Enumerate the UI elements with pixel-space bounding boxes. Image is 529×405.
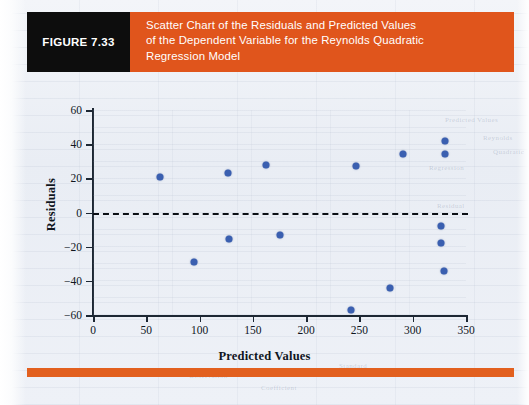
scatter-point — [438, 240, 445, 247]
x-tick — [466, 315, 468, 322]
y-tick-label: −40 — [64, 275, 82, 287]
y-tick-label: 20 — [71, 172, 83, 184]
scatter-point — [441, 151, 448, 158]
x-tick — [93, 315, 95, 322]
x-tick — [306, 315, 308, 322]
figure-number-tag: FIGURE 7.33 — [27, 12, 130, 72]
y-tick-label: 60 — [71, 104, 83, 116]
ghost-text: Reynolds — [483, 134, 513, 142]
scatter-point — [276, 231, 283, 238]
scatter-point — [440, 267, 447, 274]
x-axis-line — [92, 315, 467, 317]
figure-header: FIGURE 7.33 Scatter Chart of the Residua… — [27, 12, 514, 72]
scatter-point — [191, 259, 198, 266]
scatter-point — [347, 306, 354, 313]
x-tick-label: 100 — [191, 324, 208, 336]
x-tick — [359, 315, 361, 322]
y-tick — [86, 178, 93, 180]
ghost-text: Quadratic — [493, 148, 524, 156]
zero-reference-line — [93, 213, 468, 215]
ghost-text: Predicted Values — [445, 116, 498, 124]
x-tick-label: 0 — [90, 324, 96, 336]
scatter-point — [400, 151, 407, 158]
x-tick-label: 300 — [404, 324, 421, 336]
y-tick-label: 0 — [76, 207, 82, 219]
y-tick — [86, 144, 93, 146]
y-axis-title: Residuals — [44, 178, 59, 231]
x-tick — [413, 315, 415, 322]
x-axis-title: Predicted Values — [0, 349, 529, 364]
caption-line-3: Regression Model — [146, 49, 504, 64]
scatter-point — [262, 161, 269, 168]
scatter-point — [226, 235, 233, 242]
y-tick — [86, 315, 93, 317]
bottom-orange-rule — [27, 368, 514, 377]
y-tick-label: −20 — [64, 241, 82, 253]
caption-line-1: Scatter Chart of the Residuals and Predi… — [146, 18, 504, 33]
x-tick — [146, 315, 148, 322]
caption-line-2: of the Dependent Variable for the Reynol… — [146, 33, 504, 48]
y-tick — [86, 247, 93, 249]
scatter-point — [387, 284, 394, 291]
x-tick-label: 150 — [244, 324, 261, 336]
figure-caption: Scatter Chart of the Residuals and Predi… — [130, 12, 514, 72]
ghost-text: Residual — [437, 202, 465, 210]
plot-area: −60−40−200204060 050100150200250300350 P… — [93, 110, 466, 315]
x-tick-label: 350 — [457, 324, 474, 336]
x-tick-label: 50 — [141, 324, 153, 336]
x-tick-label: 250 — [351, 324, 368, 336]
y-tick-label: 40 — [71, 138, 83, 150]
ghost-text: Regression — [429, 164, 464, 172]
x-tick — [200, 315, 202, 322]
scatter-point — [225, 170, 232, 177]
x-tick — [253, 315, 255, 322]
scatter-point — [441, 137, 448, 144]
scatter-chart: Residuals Predicted Values −60−40−200204… — [0, 78, 529, 363]
y-tick-label: −60 — [64, 309, 82, 321]
y-tick — [86, 213, 93, 215]
scatter-point — [157, 173, 164, 180]
scatter-point — [438, 223, 445, 230]
x-tick-label: 200 — [298, 324, 315, 336]
scatter-point — [353, 163, 360, 170]
y-tick — [86, 281, 93, 283]
y-tick — [86, 110, 93, 112]
